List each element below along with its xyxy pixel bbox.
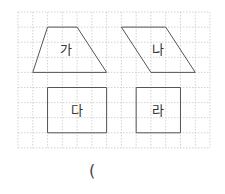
label-na: 나: [152, 42, 164, 57]
shapes-group: [33, 27, 195, 133]
shape-grid-figure: 가 나 다 라: [0, 0, 225, 194]
answer-open-paren: (: [89, 163, 95, 179]
dotted-grid: [18, 12, 210, 148]
label-ga: 가: [60, 42, 72, 57]
label-da: 다: [71, 103, 83, 118]
label-ra: 라: [152, 103, 164, 118]
